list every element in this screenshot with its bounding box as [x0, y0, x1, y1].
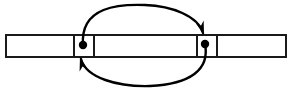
right-marker-dot — [201, 40, 209, 48]
array-bar-outline — [6, 35, 286, 57]
array-bar-group — [6, 35, 286, 57]
swap-diagram-figure — [0, 0, 293, 98]
left-marker-dot — [79, 41, 87, 49]
diagram-canvas — [0, 0, 293, 98]
